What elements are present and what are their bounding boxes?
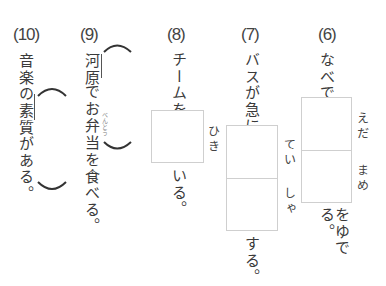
question-8-text-after: いる。: [170, 168, 185, 218]
question-6-reading-1: えだ: [355, 112, 367, 142]
question-8-number: (8): [167, 25, 185, 45]
question-7-text-before: バスが急に: [243, 52, 258, 135]
question-9-underlined-word: 河原: [83, 53, 98, 86]
question-8-reading: ひき: [206, 125, 218, 155]
answer-box-divider: [227, 178, 277, 179]
question-7-reading-1: てい: [282, 138, 294, 168]
question-10-text-part2: がある。: [17, 136, 32, 202]
question-10-answer-bracket[interactable]: [35, 82, 71, 198]
question-6-answer-box[interactable]: [301, 97, 352, 203]
question-9-number: (9): [80, 25, 98, 45]
question-7-number: (7): [241, 25, 259, 45]
question-10-text-part1: 音楽の: [17, 53, 32, 103]
question-7-text-after: する。: [243, 236, 258, 286]
question-6-text-after: をゆでる。: [318, 207, 348, 286]
answer-box-divider: [302, 150, 351, 151]
question-7-reading-2: しゃ: [282, 187, 294, 217]
question-8-answer-box[interactable]: [151, 110, 204, 163]
question-10-underlined-word: 素質: [17, 103, 32, 136]
question-9-text-part3: を食べる。: [83, 152, 98, 235]
question-9-answer-bracket[interactable]: [100, 40, 136, 156]
question-6-text-before: なべで: [318, 52, 333, 102]
question-7-answer-box[interactable]: [226, 125, 278, 231]
question-8-text-before: チームを: [170, 52, 185, 118]
question-9-text-part1: でお: [83, 84, 98, 117]
question-10-number: (10): [13, 25, 39, 45]
question-6-reading-2: まめ: [355, 164, 367, 194]
question-6-number: (6): [318, 25, 336, 45]
question-9-text-part2: 弁当: [83, 118, 98, 151]
